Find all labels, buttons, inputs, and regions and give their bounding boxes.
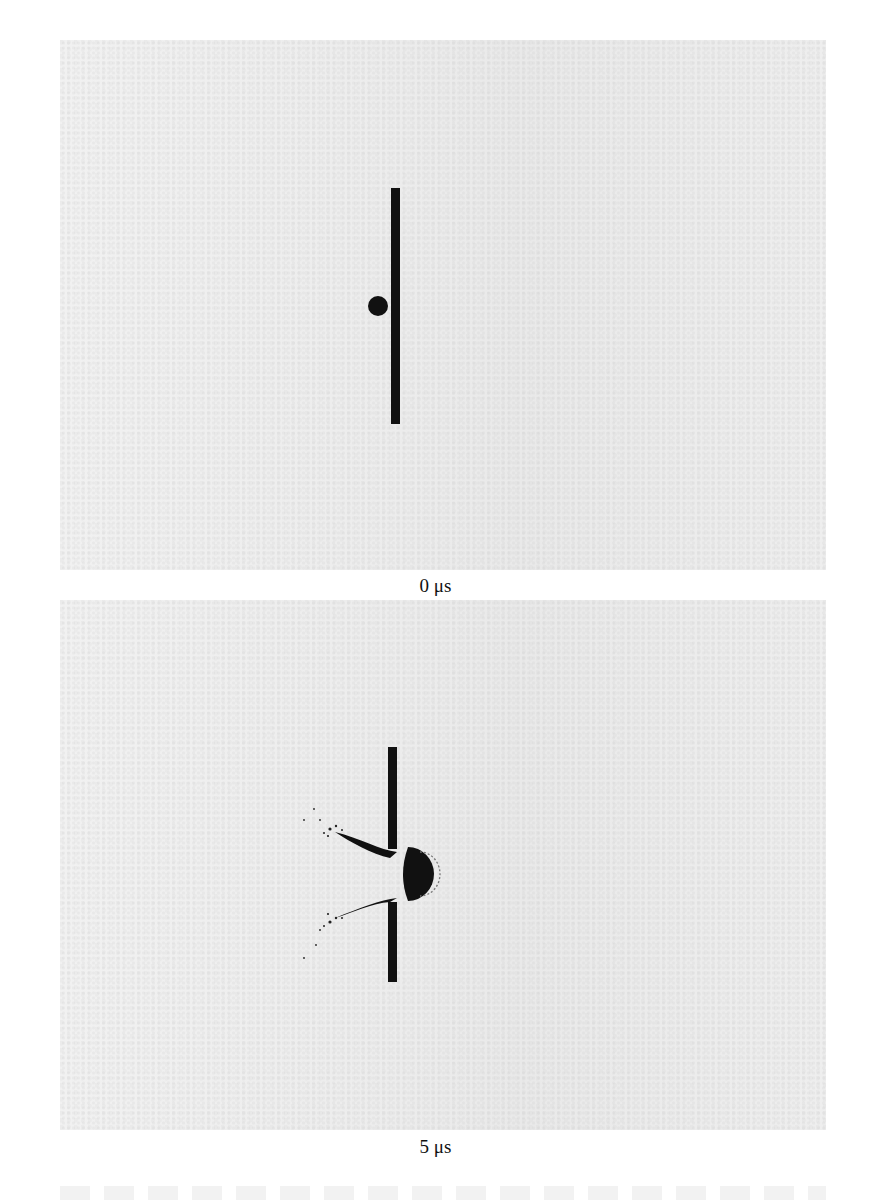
target-plate-upper bbox=[388, 747, 397, 849]
frame-time-label: 0 μs bbox=[0, 575, 871, 597]
target-plate-lower bbox=[388, 902, 397, 982]
figure-caption-cutoff bbox=[60, 1186, 826, 1200]
simulation-frame-5us bbox=[60, 600, 826, 1130]
ejecta-lower bbox=[335, 898, 397, 918]
projectile-sphere bbox=[368, 296, 388, 316]
frame-time-label: 5 μs bbox=[0, 1136, 871, 1158]
spray-particles bbox=[303, 808, 343, 959]
debris-cloud bbox=[403, 847, 434, 901]
simulation-frame-0us bbox=[60, 40, 826, 570]
target-plate bbox=[391, 188, 400, 424]
impact-diagram-5us bbox=[60, 600, 826, 1130]
impact-diagram-0us bbox=[60, 40, 826, 570]
ejecta-upper bbox=[335, 832, 397, 858]
